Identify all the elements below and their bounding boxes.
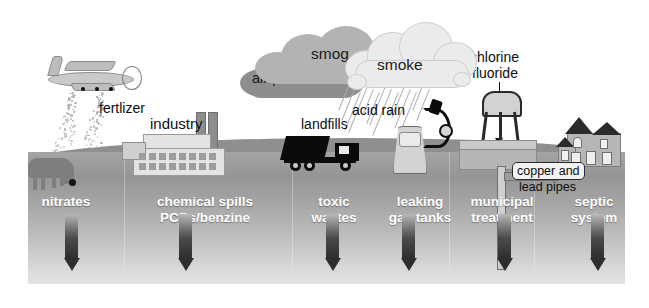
spray-particle: [90, 129, 92, 131]
label-smog: smog: [311, 45, 349, 63]
label-fluoride: fluoride: [472, 66, 518, 82]
house-window: [600, 139, 608, 149]
spray-particle: [64, 129, 66, 131]
spray-particle: [70, 136, 71, 137]
spray-particle: [101, 124, 103, 126]
spray-particle: [60, 147, 61, 148]
factory-window: [169, 163, 176, 170]
house-window: [573, 137, 582, 148]
label-acid-rain: acid rain: [352, 103, 405, 119]
label-chlorine: chlorine: [470, 50, 519, 66]
spray-particle: [97, 136, 98, 137]
pump-display: [399, 132, 421, 147]
factory-window: [209, 153, 216, 160]
factory-window: [139, 153, 146, 160]
spray-nozzle: [95, 87, 99, 91]
ground-label-nitrates: nitrates: [16, 194, 116, 210]
factory-window: [149, 153, 156, 160]
spray-nozzle: [109, 87, 113, 91]
spray-particle: [70, 104, 72, 106]
house-window: [561, 150, 569, 161]
groundwater-contamination-diagram: fertlizer air pollution smog smoke acid …: [0, 0, 649, 308]
pump-nozzle-end: [439, 124, 453, 138]
spray-particle: [73, 96, 75, 98]
spray-particle: [94, 133, 96, 135]
label-fertlizer: fertlizer: [99, 101, 145, 117]
spray-particle: [59, 127, 61, 129]
house-window: [602, 152, 612, 165]
spray-particle: [70, 141, 72, 143]
spray-particle: [67, 117, 68, 118]
spray-particle: [92, 118, 94, 120]
factory-window: [209, 163, 216, 170]
spray-particle: [58, 138, 59, 139]
spray-particle: [88, 135, 90, 137]
spray-particle: [96, 113, 98, 115]
spray-particle: [71, 100, 73, 102]
spray-particle: [70, 130, 72, 132]
factory-window: [159, 163, 166, 170]
spray-particle: [62, 123, 64, 125]
house-roof-left: [565, 117, 593, 134]
spray-particle: [55, 145, 57, 147]
spray-particle: [70, 114, 72, 116]
spray-particle: [69, 127, 71, 129]
spray-particle: [74, 106, 76, 108]
infiltration-arrow: [177, 214, 194, 271]
label-lead-pipes: lead pipes: [519, 180, 576, 194]
spray-particle: [55, 142, 56, 143]
spray-particle: [86, 144, 87, 145]
spray-particle: [61, 137, 64, 140]
treatment-plant-roof: [459, 140, 537, 150]
spray-particle: [98, 123, 100, 125]
factory-window: [169, 153, 176, 160]
infiltration-arrow: [589, 214, 606, 271]
spray-particle: [93, 110, 95, 112]
truck-hub: [307, 163, 312, 168]
spray-particle: [73, 111, 75, 113]
label-landfills: landfills: [301, 117, 348, 133]
spray-particle: [90, 143, 92, 145]
house-roof-wing: [556, 137, 574, 147]
factory-window: [199, 153, 206, 160]
spray-particle: [57, 144, 59, 146]
plane-wing-top: [63, 61, 116, 71]
spray-particle: [102, 96, 103, 97]
spray-particle: [63, 116, 65, 118]
infiltration-arrow: [63, 214, 80, 271]
spray-particle: [100, 142, 102, 144]
truck-window: [339, 146, 349, 154]
spray-particle: [66, 121, 68, 123]
factory-window: [189, 153, 196, 160]
spray-particle: [63, 146, 65, 148]
spray-particle: [90, 126, 92, 128]
spray-particle: [70, 143, 72, 145]
factory-window: [189, 163, 196, 170]
spray-particle: [64, 135, 66, 137]
infiltration-arrow: [324, 214, 341, 271]
spray-particle: [95, 141, 97, 143]
ground-label-chemical-spills: chemical spills PCBs/benzine: [130, 194, 280, 225]
spray-particle: [89, 119, 91, 121]
factory-window: [149, 163, 156, 170]
plane-propeller: [122, 66, 142, 90]
spray-particle: [72, 120, 74, 122]
infiltration-arrow: [400, 214, 417, 271]
factory-window: [179, 153, 186, 160]
spray-particle: [98, 132, 99, 133]
spray-particle: [94, 130, 96, 132]
truck-hub: [293, 163, 298, 168]
infiltration-arrow: [496, 214, 513, 271]
spray-particle: [94, 121, 95, 122]
factory-window: [199, 163, 206, 170]
factory-window: [159, 153, 166, 160]
house-roof-right: [592, 122, 621, 135]
label-industry: industry: [150, 116, 203, 133]
factory-window: [139, 163, 146, 170]
house-door: [586, 151, 596, 165]
spray-particle: [86, 131, 88, 133]
callout-copper-and: copper and: [512, 162, 585, 180]
spray-particle: [67, 101, 69, 103]
ground-divider: [124, 152, 125, 270]
label-smoke: smoke: [377, 56, 423, 74]
